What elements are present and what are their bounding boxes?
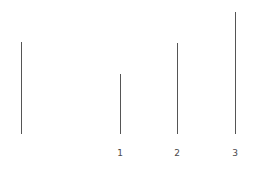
stem-bar-1 (120, 74, 121, 134)
chart-container: 1 2 3 (0, 0, 255, 173)
stem-bar-2 (177, 43, 178, 134)
x-axis-tick-label-1: 1 (110, 148, 130, 158)
x-axis-tick-label-2: 2 (167, 148, 187, 158)
plot-area: 1 2 3 (0, 0, 255, 173)
stem-bar-0 (21, 42, 22, 134)
x-axis-tick-label-3: 3 (225, 148, 245, 158)
stem-bar-3 (235, 12, 236, 134)
